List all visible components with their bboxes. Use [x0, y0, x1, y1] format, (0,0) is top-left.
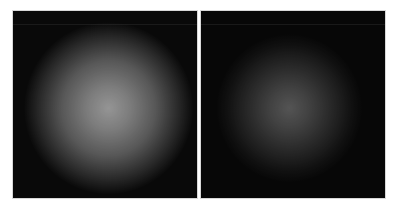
- right-image-panel: [201, 11, 385, 198]
- left-noise-texture: [13, 11, 197, 198]
- right-noise-texture: [201, 11, 385, 198]
- figure: [0, 0, 397, 211]
- left-scanline: [13, 24, 197, 25]
- right-scanline: [201, 24, 385, 25]
- left-image-panel: [13, 11, 197, 198]
